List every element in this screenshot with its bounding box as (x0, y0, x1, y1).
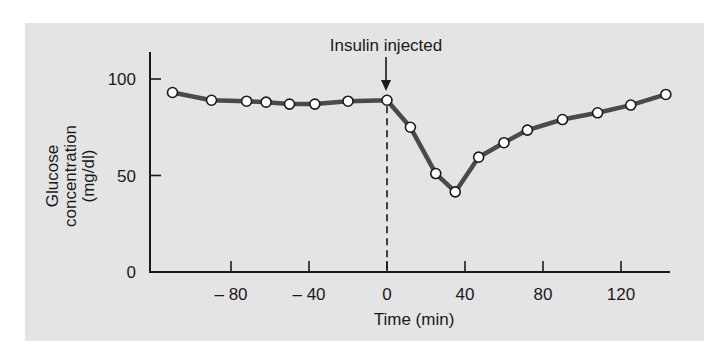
data-point-marker (285, 99, 295, 109)
data-point-marker (450, 187, 460, 197)
data-point-marker (558, 115, 568, 125)
y-tick-label: 50 (117, 167, 136, 186)
data-point-marker (382, 95, 392, 105)
data-point-marker (522, 125, 532, 135)
x-tick-label: – 80 (214, 285, 247, 304)
y-axis-title-line1: Glucose (43, 145, 62, 207)
data-point-marker (261, 97, 271, 107)
data-point-marker (168, 88, 178, 98)
data-point-marker (499, 138, 509, 148)
data-point-marker (474, 152, 484, 162)
insulin-annotation: Insulin injected (330, 36, 442, 91)
data-series (168, 88, 671, 197)
data-point-marker (310, 99, 320, 109)
data-point-marker (207, 95, 217, 105)
glucose-line-chart: 050100– 80– 4004080120 Insulin injected … (0, 0, 718, 353)
y-tick-label: 100 (108, 70, 136, 89)
data-point-marker (431, 169, 441, 179)
data-point-marker (626, 100, 636, 110)
data-point-marker (242, 96, 252, 106)
x-tick-label: 0 (382, 285, 391, 304)
annotation-label: Insulin injected (330, 36, 442, 55)
x-tick-label: 120 (607, 285, 635, 304)
axis-titles: Time (min) Glucose concentration (mg/dl) (43, 125, 454, 329)
x-axis-title: Time (min) (374, 310, 455, 329)
x-tick-label: 40 (456, 285, 475, 304)
arrow-down-icon (381, 80, 391, 91)
series-line (173, 93, 666, 192)
x-tick-label: – 40 (292, 285, 325, 304)
axes: 050100– 80– 4004080120 (108, 52, 670, 304)
data-point-marker (661, 89, 671, 99)
data-point-marker (405, 122, 415, 132)
y-axis-title-line2: concentration (61, 125, 80, 227)
data-point-marker (593, 108, 603, 118)
y-tick-label: 0 (127, 263, 136, 282)
x-tick-label: 80 (534, 285, 553, 304)
data-point-marker (343, 96, 353, 106)
y-axis-title-line3: (mg/dl) (79, 150, 98, 203)
